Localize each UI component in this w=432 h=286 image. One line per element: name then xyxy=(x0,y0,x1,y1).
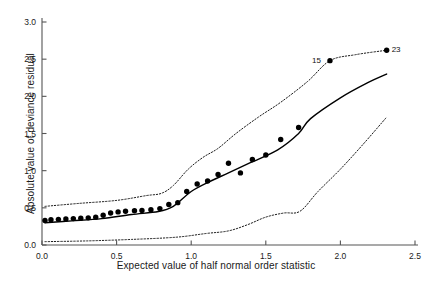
data-point xyxy=(63,216,68,221)
y-tick-label: 2.0 xyxy=(14,91,36,101)
data-point xyxy=(42,218,47,223)
data-point xyxy=(215,172,220,177)
data-point xyxy=(157,206,162,211)
data-point xyxy=(100,213,105,218)
data-point xyxy=(238,170,243,175)
data-point-label: 23 xyxy=(392,45,401,54)
x-tick-label: 2.0 xyxy=(334,251,346,261)
x-tick-label: 2.5 xyxy=(409,251,421,261)
y-tick-label: 3.0 xyxy=(14,17,36,27)
data-point xyxy=(250,157,255,162)
y-tick-label: 1.0 xyxy=(14,166,36,176)
x-tick-label: 0.5 xyxy=(111,251,123,261)
data-point xyxy=(384,48,389,53)
median-line xyxy=(45,74,387,223)
data-point xyxy=(139,208,144,213)
data-point xyxy=(71,216,76,221)
y-tick-label: 2.5 xyxy=(14,54,36,64)
data-point xyxy=(48,217,53,222)
data-point xyxy=(263,152,268,157)
x-tick-label: 1.0 xyxy=(185,251,197,261)
data-point xyxy=(166,202,171,207)
upper-envelope-line xyxy=(45,50,387,206)
data-point-label: 15 xyxy=(312,56,321,65)
data-point xyxy=(278,137,283,142)
data-point xyxy=(175,200,180,205)
data-point xyxy=(184,189,189,194)
chart-canvas xyxy=(0,0,432,286)
x-tick-label: 0.0 xyxy=(36,251,48,261)
data-point xyxy=(205,178,210,183)
data-point xyxy=(123,208,128,213)
y-tick-label: 0.5 xyxy=(14,203,36,213)
data-point xyxy=(226,161,231,166)
x-axis-title: Expected value of half normal order stat… xyxy=(0,260,432,271)
data-point xyxy=(78,216,83,221)
data-point xyxy=(56,217,61,222)
x-tick-label: 1.5 xyxy=(260,251,272,261)
data-point xyxy=(194,181,199,186)
data-point xyxy=(108,210,113,215)
y-tick-label: 0.0 xyxy=(14,240,36,250)
data-point xyxy=(148,207,153,212)
data-point xyxy=(93,214,98,219)
data-point xyxy=(132,208,137,213)
y-tick-label: 1.5 xyxy=(14,129,36,139)
half-normal-plot-figure: Expected value of half normal order stat… xyxy=(0,0,432,286)
data-point xyxy=(327,58,332,63)
data-point xyxy=(296,125,301,130)
data-point xyxy=(86,215,91,220)
data-point xyxy=(115,209,120,214)
